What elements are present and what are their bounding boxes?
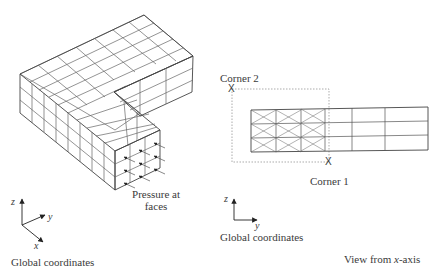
pressure-label: Pressure at faces	[118, 188, 194, 212]
left-y-label: y	[48, 211, 52, 222]
block-side-faces	[20, 56, 193, 190]
right-z-label: z	[224, 193, 228, 204]
side-view-mesh	[251, 107, 428, 152]
corner1-marker: X	[325, 156, 332, 168]
right-y-label: y	[255, 220, 259, 231]
isometric-block	[20, 15, 193, 151]
left-axes-caption: Global coordinates	[11, 256, 94, 268]
corner1-label: Corner 1	[310, 175, 349, 187]
right-axes	[234, 199, 257, 220]
corner2-marker: X	[228, 83, 235, 95]
left-axes	[22, 199, 45, 242]
right-axes-caption: Global coordinates	[220, 231, 303, 243]
view-caption: View from x-axis	[344, 253, 420, 265]
left-z-label: z	[11, 196, 15, 207]
left-x-label: x	[34, 240, 38, 251]
corner2-label: Corner 2	[220, 72, 259, 84]
